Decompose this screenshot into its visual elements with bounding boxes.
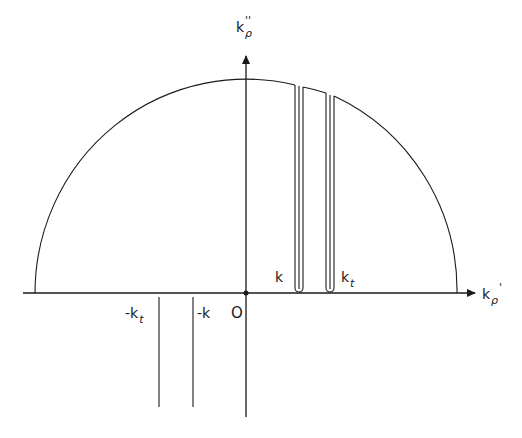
origin-point <box>244 291 249 296</box>
axis-subscript: ρ <box>491 294 498 307</box>
axis-subscript: ρ <box>245 27 252 40</box>
point-label-kt: kt <box>341 270 354 284</box>
origin-label: O <box>231 306 243 321</box>
point-label-k: k <box>275 270 283 284</box>
axis-superscript: ' <box>499 281 502 294</box>
axis-symbol: k <box>236 19 244 35</box>
branch-cut-kt <box>326 93 334 292</box>
origin-text: O <box>231 304 243 322</box>
point-symbol: k <box>275 269 283 285</box>
complex-plane-diagram <box>0 0 522 438</box>
axis-symbol: k <box>482 286 490 302</box>
point-symbol: -k <box>125 305 138 321</box>
axis-superscript: '' <box>245 14 251 27</box>
vertical-axis-label: kρ'' <box>236 20 251 34</box>
point-symbol: k <box>341 269 349 285</box>
point-label-neg-kt: -kt <box>125 306 144 320</box>
point-subscript: t <box>350 277 354 290</box>
branch-cut-k <box>295 85 303 292</box>
contour-arc-right <box>334 96 457 293</box>
point-subscript: t <box>139 313 143 326</box>
contour-arc-middle <box>303 87 326 93</box>
contour-arc-left <box>35 79 295 293</box>
point-symbol: -k <box>197 305 210 321</box>
point-label-neg-k: -k <box>197 306 210 320</box>
horizontal-axis-label: kρ' <box>482 287 502 301</box>
